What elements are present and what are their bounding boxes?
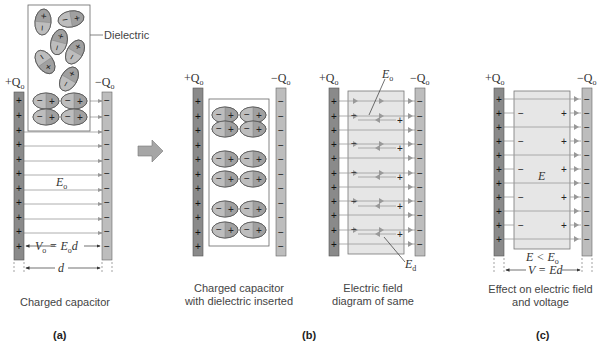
svg-text:−: − — [417, 153, 423, 164]
panel-c-plus-charge: +Qo — [485, 71, 504, 87]
panel-a-letter: (a) — [53, 329, 66, 341]
svg-text:+: + — [331, 139, 337, 150]
svg-text:+: + — [16, 197, 22, 208]
svg-text:+: + — [331, 239, 337, 250]
svg-text:+: + — [195, 154, 201, 165]
svg-text:−: − — [278, 111, 284, 122]
equation-mid: = E — [46, 239, 67, 253]
caption-line: Charged capacitor — [176, 282, 302, 295]
svg-text:+: + — [496, 136, 502, 147]
svg-text:+: + — [397, 143, 403, 154]
svg-text:−: − — [417, 196, 423, 207]
minus-charge-text: −Q — [410, 71, 425, 85]
svg-text:−: − — [584, 178, 590, 189]
field-label-eo: Eo — [382, 67, 393, 83]
svg-text:+: + — [561, 108, 567, 119]
plus-charge-text: +Q — [184, 71, 199, 85]
svg-text:−: − — [417, 168, 423, 179]
svg-text:+: + — [397, 229, 403, 240]
panel-a-voltage-equation: Vo = Eod — [35, 239, 78, 255]
svg-text:+: + — [195, 241, 201, 252]
svg-text:+: + — [16, 212, 22, 223]
field-label-ed: Ed — [405, 257, 416, 273]
svg-text:+: + — [496, 164, 502, 175]
svg-text:+: + — [496, 220, 502, 231]
svg-text:−: − — [584, 164, 590, 175]
field-subscript: o — [63, 182, 67, 191]
svg-text:−: − — [584, 94, 590, 105]
svg-text:−: − — [104, 154, 110, 165]
svg-text:+: + — [331, 153, 337, 164]
svg-text:+: + — [16, 168, 22, 179]
svg-text:+: + — [331, 125, 337, 136]
svg-text:−: − — [518, 220, 524, 231]
inequality-text: E < E — [526, 250, 555, 264]
panel-b2-plus-charge: +Qo — [319, 71, 338, 87]
charge-subscript: o — [425, 78, 429, 87]
panel-c-voltage-equation: V = Ed — [528, 263, 563, 278]
minus-charge-text: −Q — [577, 71, 592, 85]
minus-charge-text: −Q — [95, 75, 110, 89]
charge-subscript: o — [286, 78, 290, 87]
svg-text:−: − — [584, 150, 590, 161]
charge-subscript: o — [334, 78, 338, 87]
svg-text:−: − — [417, 225, 423, 236]
svg-text:+: + — [496, 122, 502, 133]
distance-symbol: d — [72, 239, 78, 253]
svg-text:−: − — [104, 168, 110, 179]
svg-text:−: − — [104, 212, 110, 223]
panel-c-field-label: E — [538, 169, 545, 184]
panel-c-minus-charge: −Qo — [577, 71, 596, 87]
panel-b-caption-1: Charged capacitorwith dielectric inserte… — [176, 282, 302, 308]
svg-text:−: − — [104, 125, 110, 136]
caption-line: and voltage — [478, 296, 603, 309]
svg-text:+: + — [397, 172, 403, 183]
svg-text:+: + — [16, 139, 22, 150]
svg-text:+: + — [16, 110, 22, 121]
charge-subscript: o — [110, 82, 114, 91]
svg-text:+: + — [195, 198, 201, 209]
panel-c-letter: (c) — [536, 329, 549, 341]
svg-text:−: − — [351, 196, 357, 207]
svg-text:+: + — [195, 227, 201, 238]
svg-text:−: − — [584, 192, 590, 203]
panel-a-field-label: Eo — [56, 175, 67, 191]
panel-b-letter: (b) — [302, 329, 316, 341]
svg-text:−: − — [518, 108, 524, 119]
plus-charge-text: +Q — [319, 71, 334, 85]
svg-text:−: − — [278, 140, 284, 151]
svg-text:+: + — [195, 96, 201, 107]
panel-c-caption: Effect on electric fieldand voltage — [478, 283, 603, 309]
svg-text:+: + — [331, 210, 337, 221]
plus-charge-text: +Q — [5, 75, 20, 89]
svg-text:−: − — [104, 139, 110, 150]
svg-text:+: + — [496, 150, 502, 161]
panel-b2-minus-charge: −Qo — [410, 71, 429, 87]
svg-text:−: − — [584, 220, 590, 231]
svg-text:+: + — [331, 196, 337, 207]
svg-text:−: − — [278, 212, 284, 223]
svg-text:−: − — [278, 183, 284, 194]
charge-subscript: o — [20, 82, 24, 91]
svg-text:−: − — [104, 110, 110, 121]
dielectric-label: Dielectric — [104, 29, 149, 42]
svg-text:+: + — [16, 241, 22, 252]
caption-line: diagram of same — [318, 295, 428, 308]
svg-text:−: − — [278, 154, 284, 165]
svg-text:+: + — [561, 220, 567, 231]
svg-text:+: + — [195, 183, 201, 194]
panel-a-capacitor: ++++ ++++ +++ −−−− −−−− −−− — [14, 5, 112, 274]
svg-text:−: − — [104, 226, 110, 237]
svg-text:+: + — [195, 212, 201, 223]
transition-arrow-icon — [138, 140, 163, 162]
svg-text:−: − — [518, 136, 524, 147]
svg-text:−: − — [104, 183, 110, 194]
svg-text:−: − — [417, 210, 423, 221]
plus-charge-text: +Q — [485, 71, 500, 85]
svg-text:−: − — [417, 96, 423, 107]
svg-text:+: + — [397, 115, 403, 126]
svg-text:+: + — [496, 206, 502, 217]
svg-text:−: − — [278, 96, 284, 107]
svg-text:−: − — [584, 234, 590, 245]
svg-text:+: + — [331, 96, 337, 107]
